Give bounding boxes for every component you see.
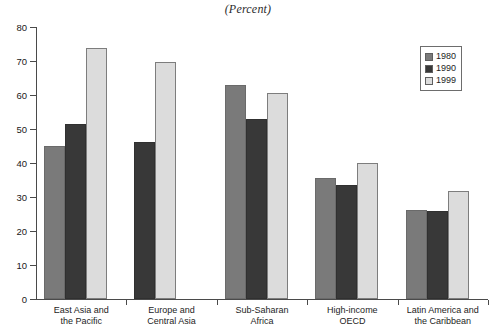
legend-label: 1980 bbox=[436, 52, 456, 61]
bar-1999-3 bbox=[267, 93, 288, 299]
legend-item-1980: 1980 bbox=[425, 51, 456, 62]
category-label-5: Latin America and the Caribbean bbox=[398, 305, 488, 327]
bar-1990-4 bbox=[336, 185, 357, 299]
bar-1990-1 bbox=[65, 124, 86, 299]
bar-1999-1 bbox=[86, 48, 107, 299]
legend-label: 1999 bbox=[436, 76, 456, 85]
bar-1999-2 bbox=[155, 62, 176, 299]
legend-swatch-icon-1999 bbox=[425, 77, 433, 85]
chart-legend: 198019901999 bbox=[420, 46, 462, 91]
chart-title: (Percent) bbox=[0, 2, 496, 17]
legend-swatch-icon-1980 bbox=[425, 53, 433, 61]
category-label-3: Sub-Saharan Africa bbox=[217, 305, 307, 327]
bar-1980-4 bbox=[315, 178, 336, 299]
category-label-2: Europe and Central Asia bbox=[126, 305, 216, 327]
category-label-4: High-income OECD bbox=[307, 305, 397, 327]
y-axis-tick-label: 80 bbox=[0, 22, 27, 33]
y-axis-tick-label: 60 bbox=[0, 90, 27, 101]
bar-1990-3 bbox=[246, 119, 267, 299]
legend-item-1990: 1990 bbox=[425, 63, 456, 74]
y-axis-tick-label: 0 bbox=[0, 294, 27, 305]
bar-1980-3 bbox=[225, 85, 246, 299]
y-axis-tick bbox=[30, 299, 36, 300]
legend-item-1999: 1999 bbox=[425, 75, 456, 86]
legend-label: 1990 bbox=[436, 64, 456, 73]
y-axis-tick-label: 40 bbox=[0, 158, 27, 169]
y-axis-tick-label: 30 bbox=[0, 192, 27, 203]
bar-1999-4 bbox=[357, 163, 378, 299]
y-axis-tick-label: 70 bbox=[0, 56, 27, 67]
bar-1980-1 bbox=[44, 146, 65, 299]
bar-1990-5 bbox=[427, 211, 448, 299]
legend-swatch-icon-1990 bbox=[425, 65, 433, 73]
y-axis-tick-label: 20 bbox=[0, 226, 27, 237]
bar-1980-5 bbox=[406, 210, 427, 299]
y-axis-tick-label: 50 bbox=[0, 124, 27, 135]
category-label-1: East Asia and the Pacific bbox=[36, 305, 126, 327]
y-axis-tick-label: 10 bbox=[0, 260, 27, 271]
x-axis-tick bbox=[488, 300, 489, 305]
x-axis-line bbox=[36, 299, 488, 300]
bar-1990-2 bbox=[134, 142, 155, 299]
bar-1999-5 bbox=[448, 191, 469, 299]
